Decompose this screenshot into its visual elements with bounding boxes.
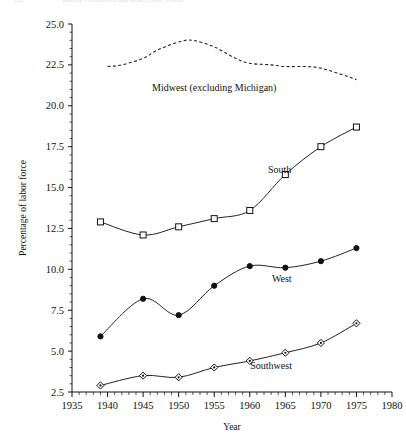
data-point-marker bbox=[140, 232, 146, 238]
data-point-marker bbox=[176, 313, 181, 318]
data-point-center bbox=[142, 375, 144, 377]
y-tick-label: 15.0 bbox=[46, 182, 64, 193]
series-line bbox=[108, 40, 357, 80]
chart-svg: 2.55.07.510.012.515.017.520.022.525.0193… bbox=[0, 0, 406, 438]
data-point-marker bbox=[354, 245, 359, 250]
x-tick-label: 1970 bbox=[310, 400, 331, 411]
y-axis-title: Percentage of labor force bbox=[18, 160, 28, 256]
x-tick-label: 1965 bbox=[275, 400, 296, 411]
series-line bbox=[100, 323, 356, 385]
y-tick-label: 7.5 bbox=[51, 305, 64, 316]
y-tick-label: 12.5 bbox=[46, 223, 64, 234]
data-point-marker bbox=[97, 219, 103, 225]
series-midwest-excluding-michigan bbox=[108, 40, 357, 80]
x-tick-label: 1975 bbox=[346, 400, 367, 411]
data-point-center bbox=[213, 366, 215, 368]
y-tick-label: 10.0 bbox=[46, 264, 64, 275]
series-south bbox=[97, 124, 359, 238]
data-point-center bbox=[284, 352, 286, 354]
data-point-center bbox=[355, 322, 357, 324]
x-tick-label: 1955 bbox=[204, 400, 225, 411]
data-point-marker bbox=[211, 216, 217, 222]
series-west bbox=[98, 245, 359, 339]
series-label-layer: Midwest (excluding Michigan)SouthWestSou… bbox=[152, 82, 292, 371]
x-tick-label: 1950 bbox=[168, 400, 189, 411]
y-tick-label: 17.5 bbox=[46, 141, 64, 152]
x-tick-label: 1960 bbox=[239, 400, 260, 411]
series-label: South bbox=[268, 164, 291, 175]
data-point-marker bbox=[283, 265, 288, 270]
data-point-center bbox=[320, 342, 322, 344]
y-tick-label: 25.0 bbox=[46, 19, 64, 30]
data-point-marker bbox=[247, 207, 253, 213]
y-tick-label: 2.5 bbox=[51, 387, 64, 398]
series-label: Midwest (excluding Michigan) bbox=[152, 82, 276, 94]
data-point-marker bbox=[247, 263, 252, 268]
x-tick-label: 1980 bbox=[382, 400, 403, 411]
x-tick-label: 1945 bbox=[133, 400, 154, 411]
data-point-center bbox=[178, 376, 180, 378]
data-point-marker bbox=[212, 283, 217, 288]
data-point-marker bbox=[318, 144, 324, 150]
data-point-center bbox=[99, 384, 101, 386]
x-axis-title: Year bbox=[223, 422, 241, 432]
x-tick-label: 1940 bbox=[97, 400, 118, 411]
line-chart-figure: 2.55.07.510.012.515.017.520.022.525.0193… bbox=[0, 0, 406, 438]
y-tick-label: 20.0 bbox=[46, 100, 64, 111]
y-tick-label: 5.0 bbox=[51, 346, 64, 357]
series-southwest bbox=[97, 320, 360, 389]
series-label: Southwest bbox=[250, 360, 292, 371]
data-point-marker bbox=[318, 259, 323, 264]
data-point-marker bbox=[141, 296, 146, 301]
x-tick-label: 1935 bbox=[62, 400, 83, 411]
axis-layer: 2.55.07.510.012.515.017.520.022.525.0193… bbox=[46, 19, 403, 411]
series-label: West bbox=[272, 273, 292, 284]
data-point-marker bbox=[98, 334, 103, 339]
data-point-marker bbox=[176, 224, 182, 230]
data-point-marker bbox=[353, 124, 359, 130]
y-tick-label: 22.5 bbox=[46, 59, 64, 70]
